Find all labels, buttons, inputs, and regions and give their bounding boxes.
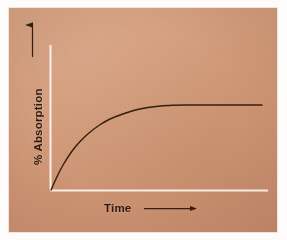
figure-root: % Absorption Time bbox=[0, 0, 287, 240]
y-axis-label: % Absorption bbox=[32, 88, 44, 165]
x-axis-label: Time bbox=[104, 202, 131, 214]
card-vignette bbox=[9, 8, 277, 232]
paper-grain-texture bbox=[9, 8, 277, 232]
paper-card bbox=[9, 8, 277, 232]
